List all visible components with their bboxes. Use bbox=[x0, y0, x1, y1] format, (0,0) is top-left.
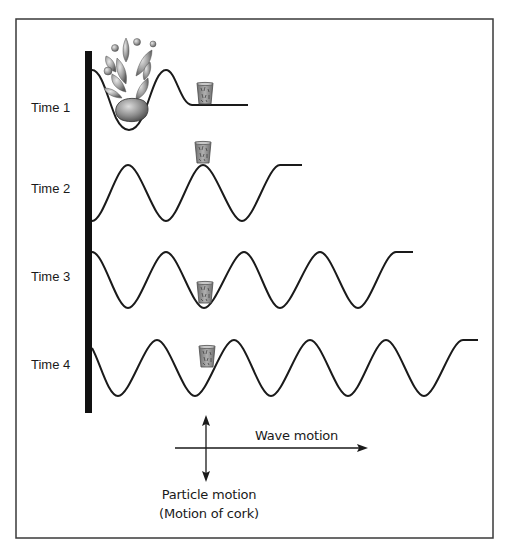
time-label-4: Time 4 bbox=[31, 357, 70, 372]
wave-diagram bbox=[0, 0, 508, 552]
time-label-1: Time 1 bbox=[31, 100, 70, 115]
time-label-3: Time 3 bbox=[31, 269, 70, 284]
cork-icon bbox=[195, 141, 211, 163]
splash-droplets-icon bbox=[104, 38, 156, 100]
particle-motion-sublabel: (Motion of cork) bbox=[139, 506, 279, 521]
time-label-2: Time 2 bbox=[31, 181, 70, 196]
wave-motion-label: Wave motion bbox=[255, 428, 338, 443]
rock-icon bbox=[116, 98, 148, 121]
cork-icon bbox=[199, 345, 215, 367]
wave-time-3 bbox=[92, 252, 413, 308]
barrier-wall bbox=[85, 51, 92, 413]
cork-icon bbox=[197, 281, 213, 303]
wave-time-4 bbox=[92, 340, 478, 396]
wave-time-2 bbox=[92, 165, 302, 221]
particle-motion-label: Particle motion bbox=[139, 487, 279, 502]
cork-icon bbox=[197, 82, 213, 104]
